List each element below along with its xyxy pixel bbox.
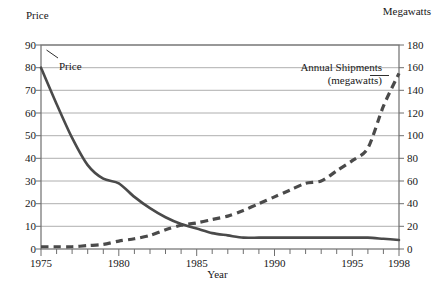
left-axis-tick-label: 70 — [5, 85, 36, 96]
x-axis-tick-label: 1975 — [30, 258, 52, 269]
left-axis-tick-labels: 0102030405060708090 — [0, 0, 36, 291]
right-axis-tick-label: 40 — [407, 198, 418, 209]
data-series — [41, 68, 399, 247]
right-axis-tick-label: 60 — [407, 176, 418, 187]
series-line-annual — [41, 73, 399, 246]
plot-area — [0, 0, 435, 291]
shipments-series-annotation: Annual Shipments (megawatts) — [262, 61, 382, 86]
left-axis-tick-label: 30 — [5, 176, 36, 187]
chart-container: Price Megawatts Year 0102030405060708090… — [0, 0, 435, 291]
price-series-annotation: Price — [59, 60, 82, 73]
left-axis-tick-label: 80 — [5, 62, 36, 73]
right-axis-tick-label: 120 — [407, 108, 424, 119]
x-axis-title: Year — [0, 268, 435, 280]
x-axis-tick-label: 1995 — [341, 258, 363, 269]
right-axis-tick-labels: 020406080100120140160180 — [399, 0, 435, 291]
price-leader-line — [47, 50, 59, 58]
right-axis-tick-label: 160 — [407, 62, 424, 73]
right-axis-tick-label: 80 — [407, 153, 418, 164]
right-axis-tick-label: 20 — [407, 221, 418, 232]
left-axis-tick-label: 90 — [5, 40, 36, 51]
x-axis-tick-label: 1998 — [388, 258, 410, 269]
left-axis-tick-label: 20 — [5, 198, 36, 209]
right-axis-tick-label: 140 — [407, 85, 424, 96]
shipments-annotation-line2: (megawatts) — [262, 74, 382, 87]
price-annotation-label: Price — [59, 60, 82, 72]
right-axis-tick-label: 180 — [407, 40, 424, 51]
left-axis-tick-label: 10 — [5, 221, 36, 232]
x-axis-tick-label: 1985 — [186, 258, 208, 269]
x-axis-tick-label: 1990 — [263, 258, 285, 269]
shipments-annotation-line1: Annual Shipments — [262, 61, 382, 74]
left-axis-tick-label: 50 — [5, 130, 36, 141]
x-axis-tick-labels: 197519801985199019951998 — [0, 249, 435, 265]
left-axis-tick-label: 60 — [5, 108, 36, 119]
right-axis-tick-label: 100 — [407, 130, 424, 141]
left-axis-tick-label: 40 — [5, 153, 36, 164]
series-line-price — [41, 68, 399, 240]
x-axis-tick-label: 1980 — [108, 258, 130, 269]
